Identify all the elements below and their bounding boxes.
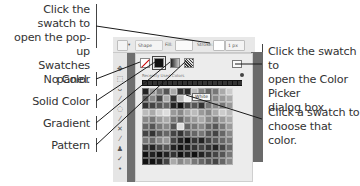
color-swatch[interactable]: [191, 137, 198, 144]
color-swatch[interactable]: [212, 102, 219, 109]
color-swatch[interactable]: [184, 137, 191, 144]
color-swatch[interactable]: [170, 109, 177, 116]
color-swatch[interactable]: [205, 109, 212, 116]
color-swatch[interactable]: [170, 95, 177, 102]
color-swatch[interactable]: [184, 144, 191, 151]
color-swatch[interactable]: [149, 130, 156, 137]
color-swatch[interactable]: [226, 95, 233, 102]
color-swatch[interactable]: [205, 123, 212, 130]
color-swatch[interactable]: [163, 88, 170, 95]
recent-color-swatch[interactable]: [238, 81, 242, 85]
color-swatch[interactable]: [156, 116, 163, 123]
recent-color-swatch[interactable]: [223, 81, 227, 85]
color-swatch[interactable]: [226, 102, 233, 109]
color-swatch[interactable]: [198, 130, 205, 137]
gear-icon[interactable]: [240, 73, 244, 77]
color-swatch[interactable]: [149, 95, 156, 102]
color-swatch[interactable]: [163, 109, 170, 116]
color-swatch[interactable]: [191, 151, 198, 158]
no-color-button[interactable]: [140, 58, 150, 68]
color-swatch[interactable]: [184, 95, 191, 102]
color-swatch[interactable]: [212, 95, 219, 102]
color-swatch[interactable]: [219, 88, 226, 95]
color-swatch[interactable]: [149, 137, 156, 144]
color-swatch[interactable]: [184, 130, 191, 137]
color-swatch[interactable]: [184, 116, 191, 123]
color-swatch[interactable]: [205, 158, 212, 165]
color-swatch[interactable]: [156, 130, 163, 137]
stamp-tool-icon[interactable]: ♟: [116, 145, 124, 153]
gradient-button[interactable]: [170, 58, 180, 68]
move-tool-icon[interactable]: ✥: [116, 65, 124, 73]
color-swatch[interactable]: [226, 123, 233, 130]
color-swatch[interactable]: [149, 102, 156, 109]
color-swatch[interactable]: [184, 123, 191, 130]
color-swatch[interactable]: [163, 144, 170, 151]
color-swatch[interactable]: [163, 151, 170, 158]
color-swatch[interactable]: [149, 144, 156, 151]
color-swatch[interactable]: [149, 116, 156, 123]
color-swatch[interactable]: [205, 144, 212, 151]
color-swatch[interactable]: [170, 88, 177, 95]
history-brush-icon[interactable]: ✓: [116, 155, 124, 163]
color-swatch[interactable]: [156, 144, 163, 151]
color-swatch[interactable]: [191, 130, 198, 137]
recent-color-swatch[interactable]: [203, 81, 207, 85]
recent-color-swatch[interactable]: [153, 81, 157, 85]
color-swatch[interactable]: [156, 158, 163, 165]
color-swatch[interactable]: [212, 144, 219, 151]
color-swatch[interactable]: [198, 116, 205, 123]
color-swatch[interactable]: [177, 137, 184, 144]
color-swatch[interactable]: [219, 158, 226, 165]
color-swatch[interactable]: [156, 95, 163, 102]
lasso-tool-icon[interactable]: ᴗ: [116, 85, 124, 93]
color-swatch[interactable]: [156, 137, 163, 144]
color-swatch[interactable]: [219, 137, 226, 144]
color-swatch[interactable]: [212, 109, 219, 116]
color-swatch[interactable]: [184, 102, 191, 109]
color-swatch[interactable]: [149, 151, 156, 158]
color-swatch[interactable]: [198, 109, 205, 116]
color-swatch[interactable]: [184, 151, 191, 158]
solid-color-button[interactable]: [154, 58, 164, 68]
color-swatch[interactable]: [142, 137, 149, 144]
recent-color-swatch[interactable]: [178, 81, 182, 85]
recent-color-swatch[interactable]: [173, 81, 177, 85]
color-swatch[interactable]: [142, 109, 149, 116]
color-swatch[interactable]: [177, 88, 184, 95]
color-swatch[interactable]: [226, 144, 233, 151]
color-swatch[interactable]: [198, 144, 205, 151]
fill-swatch-button[interactable]: [175, 40, 193, 51]
color-swatch[interactable]: [170, 144, 177, 151]
color-swatch[interactable]: [177, 116, 184, 123]
color-swatch[interactable]: [226, 158, 233, 165]
color-swatch[interactable]: [205, 137, 212, 144]
tool-preset-button[interactable]: [117, 40, 128, 51]
color-swatch[interactable]: [198, 123, 205, 130]
color-swatch[interactable]: [184, 158, 191, 165]
color-swatch[interactable]: [149, 158, 156, 165]
color-swatch[interactable]: [142, 123, 149, 130]
color-swatch[interactable]: [163, 158, 170, 165]
recent-color-swatch[interactable]: [158, 81, 162, 85]
color-swatch[interactable]: [156, 123, 163, 130]
brush-tool-icon[interactable]: ⁄: [116, 95, 124, 103]
stroke-width-field[interactable]: 1 px: [225, 40, 245, 51]
color-swatch[interactable]: [177, 123, 184, 130]
color-swatch[interactable]: [177, 144, 184, 151]
recent-color-swatch[interactable]: [168, 81, 172, 85]
recent-color-swatch[interactable]: [233, 81, 237, 85]
color-swatch[interactable]: [177, 95, 184, 102]
recent-color-swatch[interactable]: [163, 81, 167, 85]
color-swatch[interactable]: [205, 102, 212, 109]
pattern-button[interactable]: [184, 58, 194, 68]
color-swatch[interactable]: [142, 158, 149, 165]
recent-color-swatch[interactable]: [183, 81, 187, 85]
color-swatch[interactable]: [156, 109, 163, 116]
color-swatch[interactable]: [219, 109, 226, 116]
color-swatch[interactable]: [191, 123, 198, 130]
color-swatch[interactable]: [212, 130, 219, 137]
quick-select-icon[interactable]: ◌: [116, 105, 124, 113]
color-swatch[interactable]: [226, 151, 233, 158]
color-swatch[interactable]: [212, 137, 219, 144]
